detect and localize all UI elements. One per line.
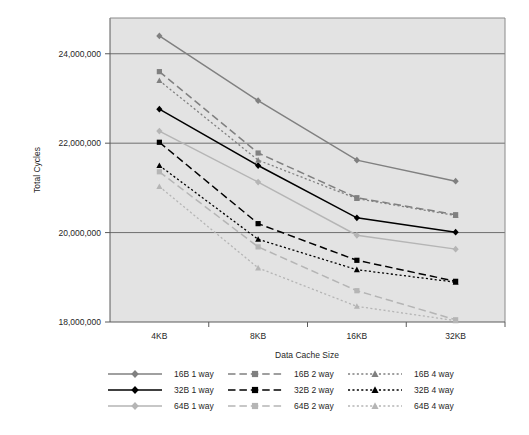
- legend-label: 16B 4 way: [414, 369, 454, 379]
- data-point-marker: [131, 386, 138, 394]
- data-point-marker: [354, 288, 359, 293]
- x-axis-title: Data Cache Size: [275, 350, 339, 360]
- legend-item-64b-1-way[interactable]: 64B 1 way: [108, 401, 214, 411]
- y-axis-ticks: 18,000,00020,000,00022,000,00024,000,000: [58, 49, 110, 327]
- data-point-marker: [371, 370, 378, 377]
- chart-legend: 16B 1 way32B 1 way64B 1 way16B 2 way32B …: [108, 369, 454, 411]
- data-point-marker: [252, 387, 258, 393]
- legend-label: 32B 1 way: [174, 385, 214, 395]
- data-point-marker: [256, 244, 261, 249]
- data-point-marker: [371, 402, 378, 409]
- data-point-marker: [252, 403, 258, 409]
- x-tick-label: 16KB: [346, 331, 367, 341]
- total-cycles-line-chart: 18,000,00020,000,00022,000,00024,000,000…: [0, 0, 529, 435]
- data-point-marker: [371, 386, 378, 393]
- x-tick-label: 4KB: [151, 331, 167, 341]
- plot-area-background: [110, 18, 505, 322]
- data-point-marker: [131, 370, 138, 378]
- data-point-marker: [354, 258, 359, 263]
- legend-label: 16B 2 way: [294, 369, 334, 379]
- legend-item-32b-1-way[interactable]: 32B 1 way: [108, 385, 214, 395]
- chart-container: 18,000,00020,000,00022,000,00024,000,000…: [0, 0, 529, 435]
- legend-item-16b-1-way[interactable]: 16B 1 way: [108, 369, 214, 379]
- y-tick-label: 20,000,000: [58, 228, 101, 238]
- legend-item-32b-2-way[interactable]: 32B 2 way: [228, 385, 334, 395]
- legend-item-64b-2-way[interactable]: 64B 2 way: [228, 401, 334, 411]
- legend-label: 16B 1 way: [174, 369, 214, 379]
- data-point-marker: [252, 371, 258, 377]
- x-tick-label: 8KB: [250, 331, 266, 341]
- y-tick-label: 24,000,000: [58, 49, 101, 59]
- legend-label: 64B 4 way: [414, 401, 454, 411]
- legend-item-64b-4-way[interactable]: 64B 4 way: [348, 401, 454, 411]
- data-point-marker: [131, 402, 138, 410]
- legend-label: 64B 1 way: [174, 401, 214, 411]
- data-point-marker: [157, 169, 162, 174]
- x-tick-label: 32KB: [445, 331, 466, 341]
- legend-item-32b-4-way[interactable]: 32B 4 way: [348, 385, 454, 395]
- data-point-marker: [157, 140, 162, 145]
- legend-item-16b-2-way[interactable]: 16B 2 way: [228, 369, 334, 379]
- y-axis-title: Total Cycles: [32, 147, 42, 193]
- legend-label: 32B 2 way: [294, 385, 334, 395]
- data-point-marker: [256, 221, 261, 226]
- y-tick-label: 18,000,000: [58, 317, 101, 327]
- data-point-marker: [157, 69, 162, 74]
- legend-label: 32B 4 way: [414, 385, 454, 395]
- legend-item-16b-4-way[interactable]: 16B 4 way: [348, 369, 454, 379]
- y-tick-label: 22,000,000: [58, 138, 101, 148]
- x-axis-ticks: 4KB8KB16KB32KB: [151, 322, 505, 341]
- data-point-marker: [256, 150, 261, 155]
- legend-label: 64B 2 way: [294, 401, 334, 411]
